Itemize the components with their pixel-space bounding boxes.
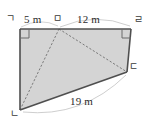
geometry-figure: 5 m 12 m 19 m ㄱ ㅁ ㄹ ㄷ ㄴ bbox=[0, 0, 151, 129]
length-label-19m: 19 m bbox=[70, 96, 93, 107]
vertex-label-top-right: ㄹ bbox=[134, 15, 143, 25]
vertex-label-bottom-left: ㄴ bbox=[10, 109, 19, 119]
vertex-label-right: ㄷ bbox=[129, 62, 138, 72]
vertex-label-top-left: ㄱ bbox=[6, 14, 15, 24]
length-label-5m: 5 m bbox=[24, 14, 41, 25]
vertex-label-top-middle: ㅁ bbox=[53, 14, 62, 24]
length-label-12m: 12 m bbox=[77, 14, 100, 25]
